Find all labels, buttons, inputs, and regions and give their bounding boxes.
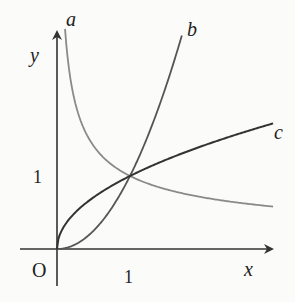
function-graph: a b c y x O 1 1	[0, 0, 295, 302]
curve-b	[57, 36, 182, 249]
x-tick-label: 1	[124, 267, 133, 287]
curve-a	[65, 29, 273, 207]
curve-c	[57, 123, 273, 249]
origin-label: O	[32, 259, 46, 281]
curve-a-label: a	[66, 8, 76, 30]
curve-b-label: b	[187, 18, 197, 40]
x-axis-label: x	[243, 258, 253, 280]
curve-c-label: c	[274, 121, 283, 143]
y-axis-label: y	[28, 44, 39, 67]
y-tick-label: 1	[33, 167, 42, 187]
